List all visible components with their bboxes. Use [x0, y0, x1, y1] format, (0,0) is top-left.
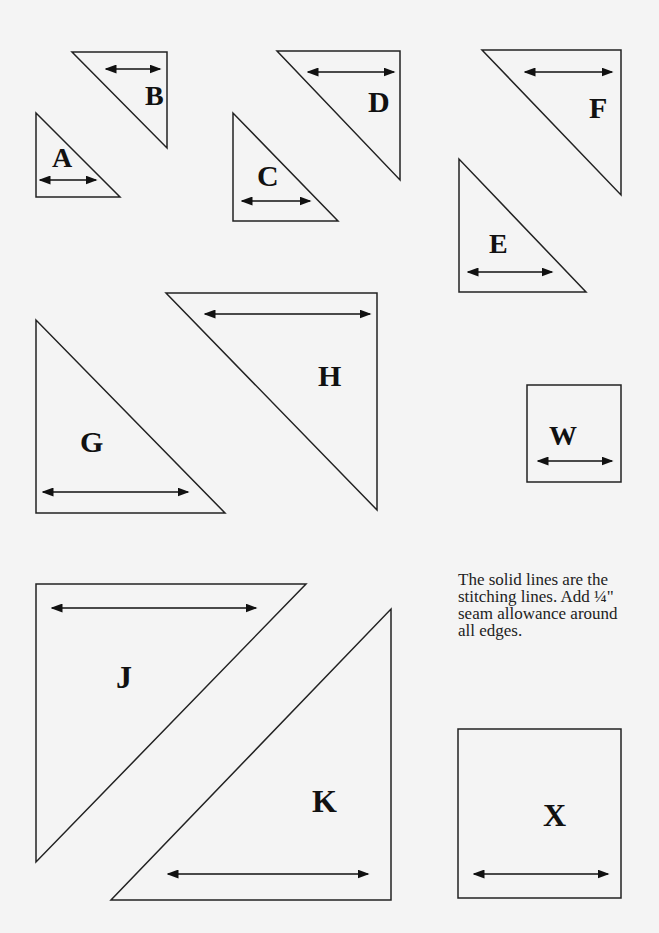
triangle-outline	[166, 293, 377, 510]
piece-x: X	[458, 729, 621, 898]
note-line-3: seam allowance around	[458, 605, 658, 622]
note-line-4: all edges.	[458, 622, 658, 639]
piece-f: F	[482, 50, 621, 195]
piece-label: B	[145, 80, 164, 111]
piece-label: G	[80, 425, 103, 458]
piece-label: A	[52, 142, 73, 173]
pattern-sheet: ABCDEFGHJKWX	[0, 0, 659, 933]
piece-w: W	[527, 385, 621, 482]
piece-label: X	[543, 797, 566, 833]
note-line-1: The solid lines are the	[458, 571, 658, 588]
piece-label: E	[489, 228, 508, 259]
piece-k: K	[111, 609, 391, 900]
piece-d: D	[277, 51, 400, 180]
piece-label: J	[116, 659, 132, 695]
piece-a: A	[36, 113, 120, 197]
piece-c: C	[233, 113, 338, 221]
piece-label: D	[368, 85, 390, 118]
note-line-2: stitching lines. Add ¼"	[458, 588, 658, 605]
piece-label: H	[318, 359, 341, 392]
triangle-outline	[111, 609, 391, 900]
piece-label: W	[549, 420, 577, 451]
piece-b: B	[72, 52, 167, 148]
triangle-outline	[36, 113, 120, 197]
piece-label: F	[589, 91, 607, 124]
piece-j: J	[36, 584, 306, 862]
triangle-outline	[36, 584, 306, 862]
piece-g: G	[36, 320, 225, 513]
piece-e: E	[459, 159, 586, 292]
piece-label: K	[312, 783, 337, 819]
instructions-note: The solid lines are the stitching lines.…	[458, 571, 658, 639]
piece-label: C	[257, 159, 279, 192]
square-outline	[458, 729, 621, 898]
piece-h: H	[166, 293, 377, 510]
triangle-outline	[233, 113, 338, 221]
triangle-outline	[36, 320, 225, 513]
